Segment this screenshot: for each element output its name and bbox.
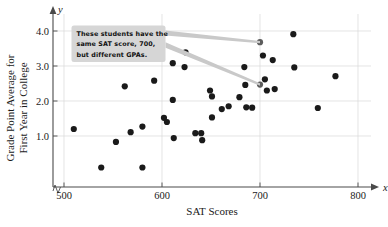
data-point [219, 106, 225, 112]
data-point [332, 73, 338, 79]
data-point [264, 87, 270, 93]
scatter-plot-figure: 500600700800 1.02.03.04.0 These students… [0, 0, 388, 227]
data-point [249, 105, 255, 111]
x-axis-variable: x [382, 182, 388, 193]
x-tick-label: 500 [56, 190, 72, 201]
data-point [207, 87, 213, 93]
data-point [151, 78, 157, 84]
data-point [128, 129, 134, 135]
x-tick-label: 800 [350, 190, 366, 201]
data-point [171, 135, 177, 141]
y-axis-title-line-1: Grade Point Average for [4, 54, 16, 161]
callout-line-1: These students have the [77, 30, 169, 38]
y-tick-label: 1.0 [36, 131, 49, 142]
x-tick-label: 700 [252, 190, 268, 201]
data-point [139, 164, 145, 170]
data-point [198, 130, 204, 136]
chart-canvas: 500600700800 1.02.03.04.0 These students… [0, 0, 388, 227]
data-point [241, 64, 247, 70]
y-axis-variable: y [57, 4, 63, 15]
y-tick-label: 3.0 [36, 61, 49, 72]
data-point [209, 114, 215, 120]
data-point [170, 97, 176, 103]
y-tick-label: 2.0 [36, 96, 49, 107]
x-axis-title: SAT Scores [186, 205, 237, 217]
callout-line-3: but different GPAs. [77, 51, 148, 59]
data-point [122, 83, 128, 89]
data-point [290, 31, 296, 37]
data-point [242, 82, 248, 88]
data-point [262, 76, 268, 82]
data-point [236, 94, 242, 100]
data-point [164, 119, 170, 125]
data-point [226, 103, 232, 109]
data-point [315, 105, 321, 111]
data-point [272, 86, 278, 92]
data-point [71, 126, 77, 132]
y-tick-label: 4.0 [36, 26, 49, 37]
y-axis-title: Grade Point Average for First Year in Co… [4, 54, 29, 161]
y-axis-title-line-2: First Year in College [17, 62, 29, 153]
data-point [98, 164, 104, 170]
data-point [270, 57, 276, 63]
data-point [260, 52, 266, 58]
data-point [113, 139, 119, 145]
data-point [243, 104, 249, 110]
callout-annotation: These students have the same SAT score, … [72, 26, 169, 63]
callout-line-2: same SAT score, 700, [77, 40, 156, 48]
data-point [291, 64, 297, 70]
data-point [192, 130, 198, 136]
data-point [209, 93, 215, 99]
data-point [139, 123, 145, 129]
x-tick-label: 600 [154, 190, 170, 201]
data-point [199, 137, 205, 143]
data-point [181, 64, 187, 70]
data-point [170, 60, 176, 66]
